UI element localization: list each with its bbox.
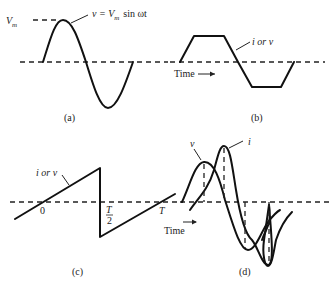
panel-c-tick-half-denominator: 2 <box>107 215 112 226</box>
panel-c-tick-period: T <box>159 205 166 216</box>
panel-d-voltage-pointer <box>194 149 201 160</box>
panel-c-curve-label: i or v <box>36 167 58 178</box>
panel-d-current-tail <box>263 205 292 266</box>
panel-a-caption: (a) <box>64 112 75 124</box>
panel-a-label-pointer <box>71 15 88 23</box>
panel-a-vm-label: Vm <box>6 15 17 29</box>
panel-d-current-pointer <box>229 141 243 148</box>
panel-b-time-arrowhead-icon <box>210 72 215 77</box>
panel-d-current-curve <box>190 146 272 265</box>
panel-b: i or v Time (b) <box>170 36 325 124</box>
panel-d-current-label: i <box>248 136 251 147</box>
waveform-figure: Vm v = Vmsin ωt (a) i or v Time (b) i or… <box>0 0 335 286</box>
panel-d-voltage-label: v <box>190 138 195 149</box>
panel-d-time-arrowhead-icon <box>192 220 197 225</box>
panel-a-sine-wave <box>43 20 133 108</box>
panel-d-time-label: Time <box>164 225 185 236</box>
panel-c: i or v 0 T 2 T (c) <box>10 167 182 278</box>
panel-a: Vm v = Vmsin ωt (a) <box>6 8 168 124</box>
panel-b-caption: (b) <box>251 112 263 124</box>
panel-b-time-label: Time <box>174 68 195 79</box>
panel-d: v i Time (d) <box>164 136 332 278</box>
panel-b-label-pointer <box>236 42 250 50</box>
panel-c-tick-half-numerator: T <box>106 204 113 215</box>
panel-a-curve-label: v = Vmsin ωt <box>92 8 147 22</box>
panel-c-label-pointer <box>62 175 69 185</box>
panel-c-caption: (c) <box>72 266 83 278</box>
panel-b-curve-label: i or v <box>252 36 274 47</box>
panel-c-tick-zero: 0 <box>40 205 45 216</box>
panel-d-caption: (d) <box>239 266 251 278</box>
